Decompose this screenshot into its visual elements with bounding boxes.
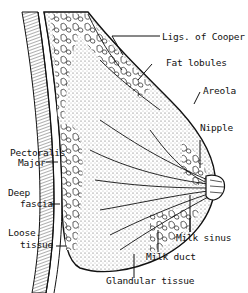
label-nipple: Nipple bbox=[200, 123, 233, 133]
label-ligaments-of-cooper: Ligs. of Cooper bbox=[162, 32, 245, 42]
label-deep-fascia-line1: Deep bbox=[8, 188, 30, 198]
label-milk-duct: Milk duct bbox=[146, 252, 196, 262]
label-fat-lobules: Fat lobules bbox=[166, 58, 227, 68]
label-deep-fascia-line2: fascia bbox=[20, 199, 53, 209]
label-areola: Areola bbox=[203, 86, 236, 96]
nipple-shape bbox=[206, 175, 225, 200]
label-pectoralis-line2: Major bbox=[18, 158, 46, 168]
label-loose-tissue-line1: Loose. bbox=[8, 228, 41, 238]
label-milk-sinus: Milk sinus bbox=[176, 233, 231, 243]
breast-anatomy-diagram: Ligs. of Cooper Fat lobules Areola Nippl… bbox=[0, 0, 248, 293]
label-glandular-tissue: Glandular tissue bbox=[106, 276, 194, 286]
label-loose-tissue-line2: tissue bbox=[20, 240, 53, 250]
